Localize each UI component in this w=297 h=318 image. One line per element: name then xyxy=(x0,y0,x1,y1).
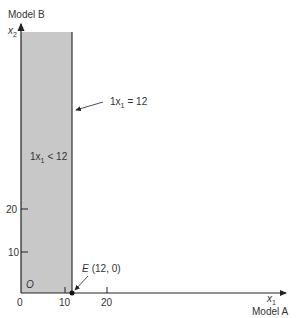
x-tick-label-20: 20 xyxy=(101,297,113,308)
constraint-line-label: 1x1= 12 xyxy=(110,96,148,109)
origin-label: O xyxy=(26,279,34,290)
point-label: E(12, 0) xyxy=(82,263,121,274)
feasible-region xyxy=(21,32,72,293)
y-axis-var: x2 xyxy=(7,25,17,38)
x-axis-var: x1 xyxy=(266,293,276,306)
constraint-diagram: Model B x2 1x1= 12 1x1< 12 20 10 O E(12,… xyxy=(0,0,297,318)
line-label-arrow xyxy=(76,102,103,110)
point-label-arrow xyxy=(75,276,88,290)
x-tick-label-10: 10 xyxy=(59,297,71,308)
x-axis-title: Model A xyxy=(252,306,288,317)
y-axis-title: Model B xyxy=(8,9,45,20)
x-tick-label-0: 0 xyxy=(17,297,23,308)
point-e xyxy=(70,291,75,296)
y-tick-label-10: 10 xyxy=(8,247,20,258)
y-tick-label-20: 20 xyxy=(6,204,18,215)
